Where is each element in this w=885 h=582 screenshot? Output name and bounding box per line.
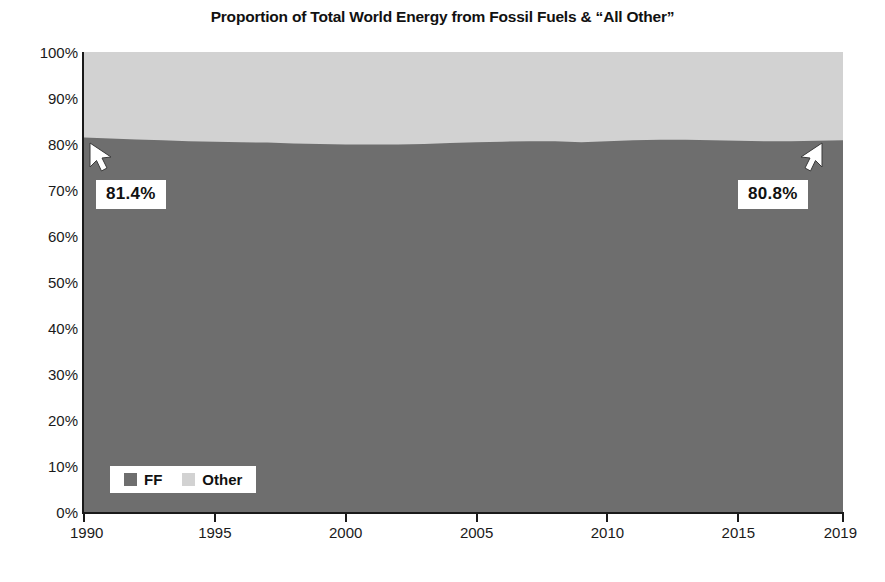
x-axis-ticks: 1990199520002005201020152019: [0, 0, 885, 582]
legend-item: FF: [124, 471, 162, 488]
x-tick-label: 2000: [329, 524, 362, 541]
chart-figure: Proportion of Total World Energy from Fo…: [0, 0, 885, 582]
x-tick-mark: [214, 514, 216, 522]
x-tick-mark: [842, 514, 844, 522]
legend-label: Other: [202, 471, 242, 488]
x-tick-label: 2005: [460, 524, 493, 541]
chart-legend: FFOther: [110, 466, 256, 493]
annotation-value-1990: 81.4%: [96, 180, 166, 209]
x-tick-mark: [345, 514, 347, 522]
legend-swatch-icon: [182, 473, 195, 486]
legend-swatch-icon: [124, 473, 137, 486]
arrow-up-left-icon: [86, 141, 116, 175]
legend-item: Other: [182, 471, 242, 488]
legend-label: FF: [144, 471, 162, 488]
x-tick-mark: [476, 514, 478, 522]
x-tick-label: 2010: [591, 524, 624, 541]
x-tick-mark: [606, 514, 608, 522]
annotation-value-2019: 80.8%: [738, 180, 808, 209]
arrow-up-right-icon: [796, 141, 826, 175]
x-tick-mark: [737, 514, 739, 522]
x-tick-label: 2019: [824, 524, 857, 541]
x-tick-label: 1990: [70, 524, 103, 541]
x-tick-label: 2015: [722, 524, 755, 541]
x-tick-mark: [83, 514, 85, 522]
x-tick-label: 1995: [198, 524, 231, 541]
